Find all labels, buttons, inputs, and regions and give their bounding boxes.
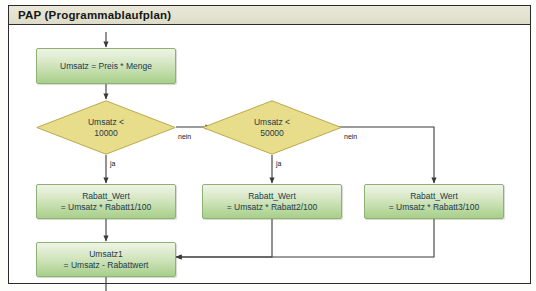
process-rabatt3-line2: = Umsatz * Rabatt3/100 [389,202,479,213]
decision2-line2: 50000 [260,128,284,139]
process-umsatz[interactable]: Umsatz = Preis * Menge [36,48,176,84]
process-umsatz1[interactable]: Umsatz1 = Umsatz - Rabattwert [36,242,176,277]
process-rabatt1-line2: = Umsatz * Rabatt1/100 [61,202,151,213]
decision1-line2: 10000 [94,128,118,139]
edge-label-decision1-ja: ja [110,160,115,167]
process-umsatz1-line1: Umsatz1 [89,249,123,260]
decision-umsatz-lt-50000[interactable]: Umsatz < 50000 [202,100,342,155]
edge-label-decision2-nein: nein [344,133,357,140]
process-umsatz-line1: Umsatz = Preis * Menge [60,61,152,72]
decision1-line1: Umsatz < [88,117,124,128]
process-rabatt3-line1: Rabatt_Wert [410,191,458,202]
process-rabatt2-line2: = Umsatz * Rabatt2/100 [227,202,317,213]
process-umsatz1-line2: = Umsatz - Rabattwert [64,260,149,271]
decision2-line1: Umsatz < [254,117,290,128]
diagram-title-bar: PAP (Programmablaufplan) [8,5,531,25]
decision1-label: Umsatz < 10000 [36,100,176,155]
process-rabatt2-line1: Rabatt_Wert [248,191,296,202]
decision-umsatz-lt-10000[interactable]: Umsatz < 10000 [36,100,176,155]
process-rabatt2[interactable]: Rabatt_Wert = Umsatz * Rabatt2/100 [202,184,342,219]
process-rabatt3[interactable]: Rabatt_Wert = Umsatz * Rabatt3/100 [364,184,504,219]
edge-label-decision2-ja: ja [276,160,281,167]
diagram-canvas: PAP (Programmablaufplan) [0,0,536,291]
process-rabatt1-line1: Rabatt_Wert [82,191,130,202]
edge-label-decision1-nein: nein [178,133,191,140]
page-title: PAP (Programmablaufplan) [18,9,171,21]
process-rabatt1[interactable]: Rabatt_Wert = Umsatz * Rabatt1/100 [36,184,176,219]
decision2-label: Umsatz < 50000 [202,100,342,155]
